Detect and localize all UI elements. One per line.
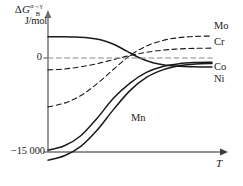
- thermodynamic-line-chart: ΔGα→γB J/mol 0 −15 000 T Mo Cr Co Ni Mn: [0, 0, 243, 186]
- series-path-mo: [48, 36, 212, 107]
- y-axis-label: ΔGα→γB J/mol: [1, 4, 47, 26]
- y-tick-label-zero: 0: [26, 51, 42, 62]
- y-axis-superscript: α→γ: [30, 2, 43, 9]
- series-curves: [48, 36, 212, 160]
- y-tick-label-bottom: −15 000: [0, 145, 45, 156]
- axes: [44, 10, 229, 155]
- plot-canvas: [0, 0, 243, 186]
- g-glyph: G: [22, 3, 30, 15]
- y-axis-subscript: B: [36, 10, 40, 17]
- series-label-ni: Ni: [214, 73, 225, 84]
- y-axis-symbol: ΔGα→γB: [1, 4, 47, 16]
- x-axis-label: T: [216, 158, 222, 170]
- series-path-co: [48, 62, 212, 150]
- series-path-mn: [48, 63, 212, 160]
- y-axis-units: J/mol: [1, 15, 47, 26]
- series-label-co: Co: [214, 61, 226, 72]
- series-label-mo: Mo: [214, 20, 229, 31]
- delta-glyph: Δ: [15, 3, 22, 15]
- series-label-mn: Mn: [131, 112, 146, 123]
- x-axis-arrowhead: [220, 149, 228, 156]
- series-label-cr: Cr: [214, 36, 225, 47]
